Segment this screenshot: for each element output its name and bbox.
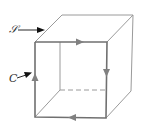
surface-pointer-arrowhead-icon [37, 27, 45, 33]
surface-label: 𝒮 [9, 23, 21, 36]
curve-pointer-line [17, 75, 26, 78]
edge-bottom-left-depth [35, 90, 60, 117]
curve-pointer-arrowhead-icon [24, 72, 32, 78]
cube-diagram: 𝒮 C [0, 0, 150, 132]
arrow-left-icon [68, 114, 76, 121]
arrow-up-icon [32, 73, 39, 81]
edge-bottom-right-depth [106, 91, 131, 118]
arrow-right-icon [76, 39, 84, 46]
edge-top-right-depth [107, 15, 133, 42]
curve-c-path [35, 42, 107, 118]
arrow-down-icon [103, 69, 110, 77]
curve-label: C [9, 72, 18, 85]
edge-back-right [131, 15, 133, 91]
